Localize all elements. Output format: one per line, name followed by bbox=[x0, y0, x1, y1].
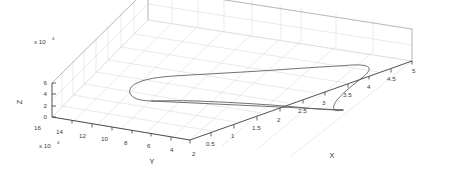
trajectory-line bbox=[130, 65, 370, 111]
x-tick-label: 5 bbox=[412, 67, 416, 74]
x-tick-label: 1.5 bbox=[252, 124, 261, 131]
data-curve-series bbox=[130, 65, 370, 111]
z-tick-labels: 0 2 4 6 bbox=[44, 79, 48, 120]
z-tick-label: 0 bbox=[44, 113, 48, 120]
z-tick-label: 4 bbox=[44, 90, 48, 97]
z-exponent-power: 4 bbox=[52, 36, 55, 41]
y-tick-label: 14 bbox=[56, 128, 63, 135]
y-exponent-label: x 10 4 bbox=[39, 140, 60, 149]
x-tick-label: 4.5 bbox=[387, 75, 396, 82]
x-tick-labels: 0.5 1 1.5 2 2.5 3 3.5 4 4.5 5 bbox=[206, 67, 416, 147]
x-tick-label: 2 bbox=[277, 116, 281, 123]
z-tick-label: 2 bbox=[44, 102, 48, 109]
y-tick-label: 16 bbox=[34, 124, 41, 131]
y-axis-label: Y bbox=[150, 157, 155, 166]
x-tick-label: 4 bbox=[367, 83, 371, 90]
y-tick-label: 2 bbox=[192, 150, 196, 157]
y-tick-label: 10 bbox=[101, 135, 108, 142]
y-tick-label: 4 bbox=[170, 146, 174, 153]
y-tick-label: 12 bbox=[79, 132, 86, 139]
y-exponent-power: 4 bbox=[57, 140, 60, 145]
y-tick-label: 6 bbox=[147, 142, 151, 149]
x-tick-label: 3 bbox=[322, 99, 326, 106]
z-axis-label: Z bbox=[15, 99, 24, 104]
y-axis bbox=[52, 117, 190, 144]
z-exponent-label: x 10 4 bbox=[34, 36, 55, 45]
z-axis bbox=[52, 83, 56, 117]
plot-3d: 0 2 4 6 x 10 4 Z 16 14 12 bbox=[0, 0, 452, 173]
x-tick-label: 1 bbox=[231, 132, 235, 139]
y-tick-label: 8 bbox=[124, 139, 128, 146]
x-axis-label: X bbox=[330, 151, 335, 160]
z-tick-label: 6 bbox=[44, 79, 48, 86]
x-tick-label: 0.5 bbox=[206, 140, 215, 147]
back-right-wall-grid bbox=[148, 0, 412, 61]
figure-canvas: 0 2 4 6 x 10 4 Z 16 14 12 bbox=[0, 0, 452, 173]
y-exponent-base: x 10 bbox=[39, 142, 51, 149]
z-exponent-base: x 10 bbox=[34, 38, 46, 45]
axis-box-edges bbox=[52, 0, 412, 83]
